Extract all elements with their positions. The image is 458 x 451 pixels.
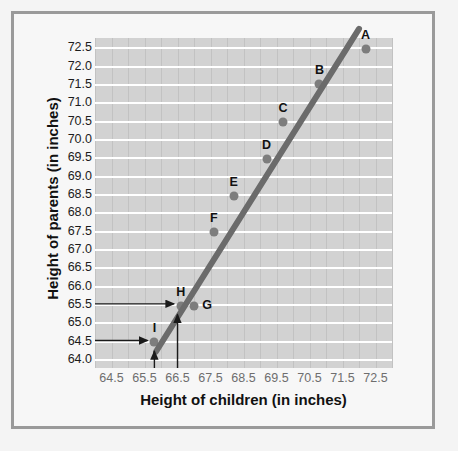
x-axis-tick-label: 66.5 [165,371,189,385]
gridline-horizontal [95,267,392,269]
gridline-horizontal [95,286,392,288]
chart-page: ABCDEFGHI 72.572.071.571.070.570.069.569… [0,0,458,451]
x-axis-title: Height of children (in inches) [95,391,392,408]
x-axis-tick-label: 68.5 [231,371,255,385]
x-axis-tick-label: 67.5 [198,371,222,385]
data-point-a[interactable] [361,45,370,54]
data-point-c[interactable] [279,118,288,127]
x-axis-tick-labels: 64.565.566.567.568.569.570.571.572.5 [95,371,392,391]
data-point-e[interactable] [229,191,238,200]
data-point-label-h: H [176,285,185,299]
gridline-horizontal [95,102,392,104]
gridline-horizontal [95,157,392,159]
x-axis-tick-label: 64.5 [99,371,123,385]
data-point-label-f: F [210,211,218,225]
y-axis-title: Height of parents (in inches) [44,34,61,364]
gridline-vertical [392,38,393,368]
data-point-label-d: D [262,138,271,152]
gridline-horizontal [95,341,392,343]
plot-area: ABCDEFGHI [95,38,392,368]
gridline-horizontal [95,121,392,123]
gridline-horizontal [95,176,392,178]
data-point-i[interactable] [150,338,159,347]
data-point-g[interactable] [190,301,199,310]
data-point-label-a: A [361,28,370,42]
horizontal-gridlines [95,38,392,368]
x-axis-tick-label: 70.5 [297,371,321,385]
gridline-horizontal [95,231,392,233]
data-point-label-i: I [153,321,156,335]
data-point-b[interactable] [315,79,324,88]
x-axis-tick-label: 69.5 [264,371,288,385]
data-point-label-c: C [279,101,288,115]
x-axis-tick-label: 71.5 [330,371,354,385]
x-axis-tick-label: 72.5 [363,371,387,385]
gridline-horizontal [95,84,392,86]
gridline-horizontal [95,322,392,324]
x-axis-tick-label: 65.5 [132,371,156,385]
data-point-h[interactable] [176,301,185,310]
data-point-f[interactable] [209,228,218,237]
gridline-horizontal [95,212,392,214]
gridline-horizontal [95,47,392,49]
data-point-d[interactable] [262,155,271,164]
gridline-horizontal [95,359,392,361]
gridline-horizontal [95,194,392,196]
gridline-horizontal [95,66,392,68]
gridline-horizontal [95,139,392,141]
data-point-label-b: B [315,63,324,77]
data-point-label-g: G [202,298,212,312]
gridline-horizontal [95,304,392,306]
data-point-label-e: E [229,175,237,189]
gridline-horizontal [95,249,392,251]
